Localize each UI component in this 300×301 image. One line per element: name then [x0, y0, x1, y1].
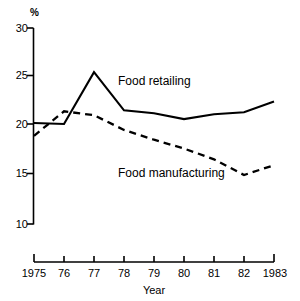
chart-container: % 30 25 20 15 10 1975 76 77 78 79 80 81 … — [0, 0, 300, 301]
x-tick-label-1983: 1983 — [253, 268, 297, 279]
series-annotation-food-manufacturing: Food manufacturing — [118, 167, 225, 179]
x-tick-label-78: 78 — [108, 268, 140, 279]
series-annotation-food-retailing: Food retailing — [118, 75, 191, 87]
x-axis-title: Year — [119, 285, 189, 296]
x-tick-label-77: 77 — [78, 268, 110, 279]
x-axis-scale-bar — [34, 254, 274, 262]
x-tick-label-80: 80 — [168, 268, 200, 279]
x-tick-label-76: 76 — [48, 268, 80, 279]
x-tick-label-81: 81 — [198, 268, 230, 279]
plot-area — [0, 0, 300, 301]
x-tick-label-79: 79 — [138, 268, 170, 279]
